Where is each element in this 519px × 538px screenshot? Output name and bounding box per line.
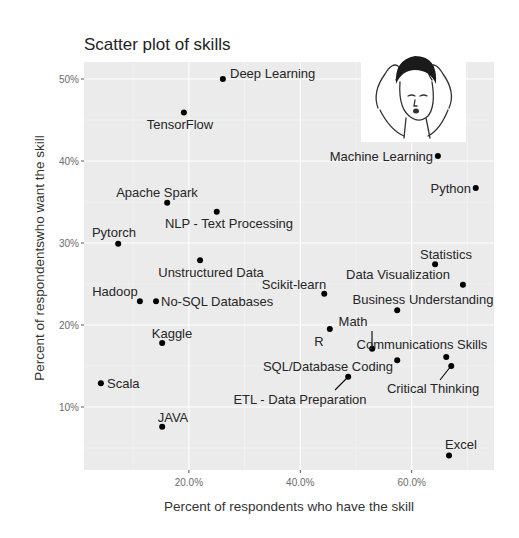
data-point (153, 298, 159, 304)
point-label: Excel (445, 437, 477, 452)
data-point (473, 185, 479, 191)
point-label: Scala (107, 376, 140, 391)
point-label: Critical Thinking (387, 381, 479, 396)
point-label: Business Understanding (353, 292, 494, 307)
point-label: Communications Skills (357, 337, 488, 352)
point-label: No-SQL Databases (161, 294, 274, 309)
point-label: R (314, 334, 323, 349)
point-label: Statistics (420, 247, 473, 262)
data-point (181, 110, 187, 116)
point-label: Python (431, 181, 471, 196)
point-label: Data Visualization (346, 267, 450, 282)
point-label: TensorFlow (147, 117, 214, 132)
y-tick-label: 50% (59, 74, 79, 85)
scatter-chart: Scatter plot of skills 20.0%40.0%60.0% 1… (0, 0, 519, 538)
data-point (98, 380, 104, 386)
y-tick-label: 30% (59, 238, 79, 249)
data-point (164, 200, 170, 206)
point-label: NLP - Text Processing (165, 216, 293, 231)
data-point (137, 298, 143, 304)
y-axis-title: Percent of respondentswho want the skill (32, 135, 47, 380)
point-label: Machine Learning (330, 149, 433, 164)
y-tick-label: 20% (59, 320, 79, 331)
data-point (460, 282, 466, 288)
point-label: Scikit-learn (262, 277, 326, 292)
data-point (345, 374, 351, 380)
data-point (446, 452, 452, 458)
y-tick-label: 40% (59, 156, 79, 167)
point-label: JAVA (158, 410, 189, 425)
stressed-man-meme-image (361, 46, 466, 142)
point-label: Kaggle (152, 326, 192, 341)
y-axis-ticks: 10%20%30%40%50% (59, 74, 84, 413)
point-label: Math (339, 314, 368, 329)
data-point (197, 257, 203, 263)
data-point (394, 357, 400, 363)
data-point (220, 76, 226, 82)
data-point (448, 363, 454, 369)
data-point (394, 307, 400, 313)
x-axis-title: Percent of respondents who have the skil… (164, 499, 414, 514)
point-label: Hadoop (92, 284, 138, 299)
point-label: Unstructured Data (158, 265, 264, 280)
x-tick-label: 40.0% (286, 477, 314, 488)
point-label: Deep Learning (230, 66, 315, 81)
x-axis-ticks: 20.0%40.0%60.0% (175, 470, 426, 488)
point-label: SQL/Database Coding (263, 359, 393, 374)
chart-title: Scatter plot of skills (84, 35, 230, 54)
x-tick-label: 60.0% (398, 477, 426, 488)
point-label: Pytorch (92, 225, 136, 240)
data-point (115, 241, 121, 247)
point-label: Apache Spark (116, 185, 198, 200)
data-point (214, 209, 220, 215)
x-tick-label: 20.0% (175, 477, 203, 488)
point-label: ETL - Data Preparation (233, 392, 366, 407)
data-point (443, 354, 449, 360)
y-tick-label: 10% (59, 402, 79, 413)
data-point (435, 153, 441, 159)
data-point (327, 326, 333, 332)
